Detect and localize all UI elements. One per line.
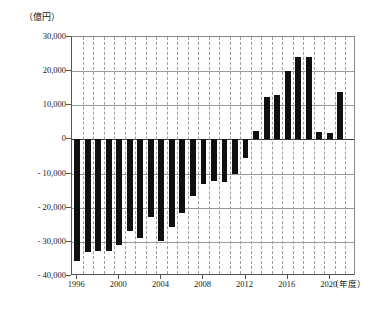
gridline-vertical <box>293 37 294 274</box>
gridline-vertical <box>177 37 178 274</box>
gridline-vertical <box>261 37 262 274</box>
bar <box>106 139 112 251</box>
x-axis-tick-label: 2000 <box>110 280 127 289</box>
chart-container: （億円） （年度） 30,00020,00010,0000- 10,000- 2… <box>0 0 375 313</box>
x-axis-tick-label: 2016 <box>278 280 295 289</box>
x-axis-tick-mark <box>245 275 246 279</box>
bar <box>337 92 343 140</box>
gridline-vertical <box>114 37 115 274</box>
gridline-vertical <box>282 37 283 274</box>
bar <box>253 131 259 139</box>
bar <box>243 139 249 157</box>
y-axis-tick-mark <box>66 207 71 208</box>
bar <box>264 97 270 139</box>
bar <box>201 139 207 183</box>
gridline-vertical <box>324 37 325 274</box>
x-axis-tick-label: 2004 <box>152 280 169 289</box>
bar <box>327 133 333 139</box>
bar <box>274 95 280 139</box>
bar <box>316 132 322 140</box>
y-axis-tick-label: - 20,000 <box>2 203 66 212</box>
gridline-vertical <box>104 37 105 274</box>
bar <box>85 139 91 252</box>
bar <box>127 139 133 231</box>
gridline-vertical <box>219 37 220 274</box>
gridline-vertical <box>314 37 315 274</box>
gridline-vertical <box>272 37 273 274</box>
x-axis-tick-label: 2020 <box>320 280 337 289</box>
gridline-vertical <box>167 37 168 274</box>
y-axis-unit-label: （億円） <box>24 10 60 23</box>
x-axis-tick-mark <box>329 275 330 279</box>
y-axis-tick-label: - 10,000 <box>2 169 66 178</box>
bar <box>222 139 228 182</box>
y-axis-tick-label: 10,000 <box>2 100 66 109</box>
y-axis-tick-mark <box>66 138 71 139</box>
x-axis-tick-label: 1996 <box>68 280 85 289</box>
x-axis-tick-mark <box>202 275 203 279</box>
x-axis-tick-mark <box>118 275 119 279</box>
gridline-vertical <box>83 37 84 274</box>
y-axis-tick-mark <box>66 70 71 71</box>
y-axis-tick-label: 0 <box>2 134 66 143</box>
gridline-vertical <box>156 37 157 274</box>
gridline-vertical <box>335 37 336 274</box>
bar <box>116 139 122 244</box>
y-axis-tick-label: - 30,000 <box>2 237 66 246</box>
y-axis-tick-mark <box>66 241 71 242</box>
bar <box>95 139 101 251</box>
bar <box>306 57 312 140</box>
bar <box>169 139 175 227</box>
y-axis-tick-mark <box>66 104 71 105</box>
bar <box>295 57 301 139</box>
y-axis-tick-label: 30,000 <box>2 32 66 41</box>
gridline-vertical <box>188 37 189 274</box>
x-axis-tick-mark <box>76 275 77 279</box>
plot-area <box>71 36 355 275</box>
gridline-vertical <box>135 37 136 274</box>
bar <box>148 139 154 216</box>
gridline-vertical <box>345 37 346 274</box>
x-axis-tick-mark <box>160 275 161 279</box>
bar <box>285 71 291 139</box>
bar <box>232 139 238 174</box>
x-axis-tick-mark <box>287 275 288 279</box>
gridline-vertical <box>125 37 126 274</box>
x-axis-tick-label: 2012 <box>236 280 253 289</box>
bar <box>179 139 185 213</box>
x-axis-tick-label: 2008 <box>194 280 211 289</box>
bar <box>137 139 143 238</box>
gridline-vertical <box>303 37 304 274</box>
gridline-vertical <box>146 37 147 274</box>
gridline-vertical <box>240 37 241 274</box>
bar <box>211 139 217 181</box>
bar <box>74 139 80 261</box>
bar <box>158 139 164 240</box>
gridline-vertical <box>93 37 94 274</box>
bar <box>190 139 196 196</box>
gridline-vertical <box>251 37 252 274</box>
y-axis-tick-mark <box>66 173 71 174</box>
y-axis-tick-label: 20,000 <box>2 66 66 75</box>
y-axis-tick-mark <box>66 36 71 37</box>
gridline-vertical <box>230 37 231 274</box>
gridline-vertical <box>198 37 199 274</box>
y-axis-tick-label: - 40,000 <box>2 271 66 280</box>
y-axis-tick-mark <box>66 275 71 276</box>
gridline-vertical <box>209 37 210 274</box>
